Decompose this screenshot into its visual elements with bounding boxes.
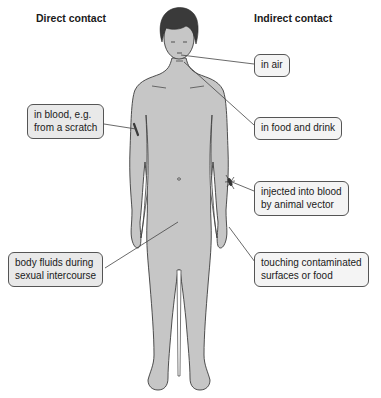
label-in-air: in air [254, 54, 290, 77]
label-text: by animal vector [261, 199, 342, 212]
label-touching-surfaces: touching contaminated surfaces or food [254, 252, 369, 287]
label-body-fluids: body fluids during sexual intercourse [8, 252, 103, 287]
heading-direct-contact: Direct contact [36, 12, 106, 24]
head [160, 7, 198, 61]
label-text: from a scratch [34, 122, 97, 135]
label-text: in food and drink [261, 122, 335, 135]
label-food-drink: in food and drink [254, 117, 342, 140]
label-text: injected into blood [261, 186, 342, 199]
label-text: in air [261, 59, 283, 72]
label-text: sexual intercourse [15, 270, 96, 283]
heading-indirect-contact: Indirect contact [254, 12, 332, 24]
label-text: in blood, e.g. [34, 109, 97, 122]
label-text: surfaces or food [261, 270, 362, 283]
label-animal-vector: injected into blood by animal vector [254, 181, 349, 216]
label-text: touching contaminated [261, 257, 362, 270]
label-text: body fluids during [15, 257, 96, 270]
label-blood-scratch: in blood, e.g. from a scratch [27, 104, 104, 139]
